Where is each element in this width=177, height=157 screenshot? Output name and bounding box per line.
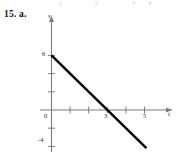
y-tick-label-6: 6: [42, 50, 45, 57]
x-tick-label-3: 3: [104, 112, 107, 119]
figure-root: 1 2 3 4 15. a.: [0, 0, 177, 157]
y-axis-name: v: [48, 12, 51, 20]
x-axis-name: t: [168, 110, 170, 118]
y-tick-label-minus-4: -4: [38, 136, 43, 143]
data-line-series: [52, 55, 147, 148]
x-tick-label-5: 5: [143, 112, 146, 119]
y-axis: [48, 16, 55, 152]
origin-label-0: 0: [44, 112, 47, 119]
line-chart: [0, 0, 177, 157]
